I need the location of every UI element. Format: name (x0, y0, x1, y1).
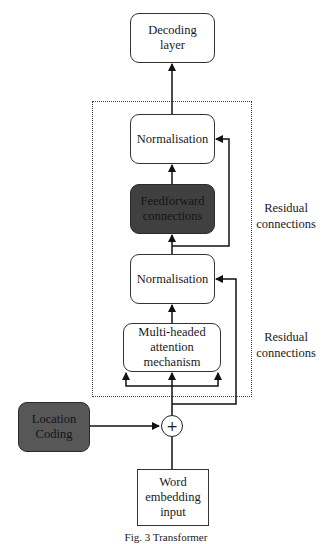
feedforward-node: Feedforward connections (130, 184, 215, 234)
figure-caption: Fig. 3 Transformer (0, 531, 332, 544)
embedding-label-line1: Word (145, 475, 201, 490)
multi-headed-attention-node: Multi-headed attention mechanism (123, 323, 221, 372)
normalisation-top-label: Normalisation (137, 132, 209, 147)
attention-label-line1: Multi-headed (138, 325, 205, 340)
feedforward-label-line2: connections (141, 209, 205, 224)
location-label-line1: Location (32, 412, 76, 427)
residual-connections-label-top: Residual connections (246, 200, 326, 232)
residual-top-line2: connections (246, 216, 326, 232)
residual-connections-label-bottom: Residual connections (246, 329, 326, 361)
normalisation-bottom-node: Normalisation (130, 254, 215, 304)
normalisation-top-node: Normalisation (130, 114, 215, 164)
decoding-label-line2: layer (148, 38, 197, 53)
location-coding-node: Location Coding (18, 402, 90, 452)
residual-bottom-line2: connections (246, 345, 326, 361)
attention-label-line3: mechanism (138, 355, 205, 370)
embedding-label-line3: input (145, 505, 201, 520)
residual-bottom-line1: Residual (246, 329, 326, 345)
word-embedding-input-node: Word embedding input (137, 469, 209, 526)
plus-icon: + (166, 419, 178, 433)
embedding-label-line2: embedding (145, 490, 201, 505)
feedforward-label-line1: Feedforward (141, 194, 205, 209)
location-label-line2: Coding (32, 427, 76, 442)
decoding-layer-node: Decoding layer (130, 13, 215, 63)
arrow-split-left (126, 373, 172, 386)
residual-top-line1: Residual (246, 200, 326, 216)
arrow-split-right (172, 373, 218, 386)
attention-label-line2: attention (138, 340, 205, 355)
add-operator-node: + (161, 415, 183, 437)
normalisation-bottom-label: Normalisation (137, 272, 209, 287)
decoding-label-line1: Decoding (148, 23, 197, 38)
